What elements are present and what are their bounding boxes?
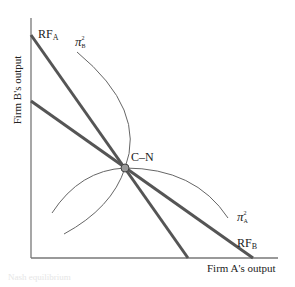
- isoprofit-a-curve: [52, 168, 228, 218]
- x-axis-label: Firm A's output: [207, 262, 276, 274]
- rf-b-line: [31, 101, 253, 258]
- cn-label: C–N: [131, 150, 154, 164]
- rf-b-label: RFB: [237, 236, 257, 251]
- pi-b-label: π2B: [75, 34, 86, 49]
- y-axis-label: Firm B's output: [11, 56, 23, 125]
- cournot-nash-diagram: RFA π2B C–N π2A RFB Firm A's output Firm…: [0, 0, 295, 287]
- caption-fragment: Nash equilibrium: [8, 272, 71, 282]
- cournot-nash-point: [121, 164, 129, 172]
- rf-a-line: [31, 35, 188, 258]
- isoprofit-b-curve: [64, 52, 130, 234]
- rf-a-label: RFA: [38, 27, 59, 42]
- pi-a-label: π2A: [237, 209, 249, 224]
